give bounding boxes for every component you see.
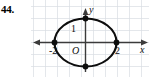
vertex-dot-bottom: [83, 64, 89, 70]
y-axis-arrow-up: [83, 8, 89, 15]
x-axis-arrow-left: [33, 40, 40, 46]
y-tick-one-label: 1: [71, 23, 76, 34]
y-axis-label: y: [88, 4, 94, 15]
vertex-dot-top: [83, 16, 89, 22]
exercise-number-label: 44.: [1, 4, 14, 15]
plot-svg: y x 1 -2 2 O: [31, 0, 149, 77]
coordinate-plot: y x 1 -2 2 O: [31, 0, 149, 77]
labels: y x 1 -2 2 O: [49, 4, 145, 56]
origin-label: O: [72, 45, 79, 56]
figure-container: 44.: [0, 0, 149, 77]
axes: [33, 8, 148, 72]
x-tick-two-label: 2: [115, 45, 120, 56]
x-axis-label: x: [139, 44, 145, 55]
x-tick-negative-two-label: -2: [49, 45, 57, 56]
